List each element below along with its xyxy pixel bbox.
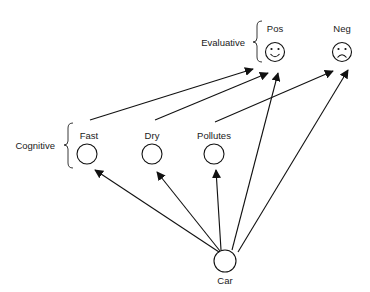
edge-car-to-neg [238,70,348,252]
pollutes-node [204,144,224,164]
evaluative-brace [253,21,262,62]
evaluative-group-label: Evaluative [201,37,245,48]
edge-fast-to-pos [90,69,253,120]
edge-pollutes-to-neg [215,71,333,122]
dry-node [142,144,162,164]
pos-label: Pos [267,23,284,34]
frowny-face-icon [333,43,352,62]
car-label: Car [217,275,232,286]
dry-label: Dry [145,130,160,141]
edge-car-to-pollutes [216,170,221,250]
edge-dry-to-pos [155,73,268,120]
smiley-face-icon [266,43,285,62]
edge-car-to-fast [95,170,219,252]
fast-node [77,144,97,164]
neg-label: Neg [333,23,350,34]
pollutes-label: Pollutes [197,130,231,141]
fast-label: Fast [80,130,99,141]
car-node [214,250,236,272]
edge-car-to-dry [157,172,220,251]
cognitive-group-label: Cognitive [15,140,55,151]
attitude-diagram: Evaluative Pos Neg Cognitive Fast Dry Po… [0,0,370,292]
cognitive-brace [64,123,73,168]
